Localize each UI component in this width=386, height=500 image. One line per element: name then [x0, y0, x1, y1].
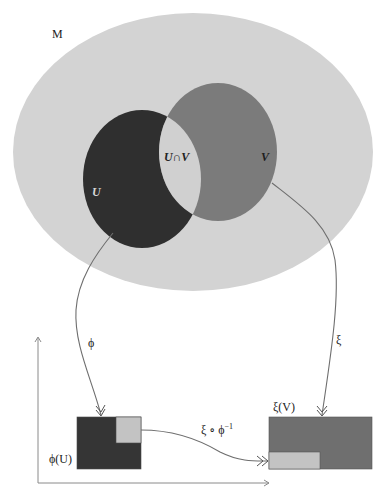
- phi-u-label: ϕ(U): [49, 452, 72, 466]
- transition-map-base: ξ ∘ ϕ: [201, 423, 225, 437]
- xi-v-label: ξ(V): [273, 400, 295, 414]
- chart-u-label: U: [92, 185, 102, 199]
- xi-overlap-rect: [269, 452, 320, 469]
- manifold-label: M: [52, 27, 63, 41]
- transition-map-label: ξ ∘ ϕ−1: [201, 422, 233, 437]
- phi-overlap-rect: [116, 417, 141, 443]
- chart-v-label: V: [261, 150, 270, 164]
- xi-map-label: ξ: [336, 333, 342, 347]
- transition-map-exponent: −1: [225, 422, 234, 431]
- intersection-label: U∩V: [164, 150, 190, 164]
- phi-map-label: ϕ: [88, 336, 94, 350]
- atlas-diagram: M U U∩V V ϕ ξ ξ ∘ ϕ−1 ϕ(U) ξ(V): [0, 0, 386, 500]
